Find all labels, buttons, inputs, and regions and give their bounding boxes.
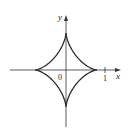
x-axis-label: x <box>115 71 120 81</box>
tick-label-1: 1 <box>103 74 107 83</box>
astroid-diagram: y x 0 1 <box>0 0 130 135</box>
origin-label: 0 <box>58 73 62 82</box>
y-axis-arrow-icon <box>64 15 68 21</box>
y-axis-label: y <box>57 12 62 22</box>
